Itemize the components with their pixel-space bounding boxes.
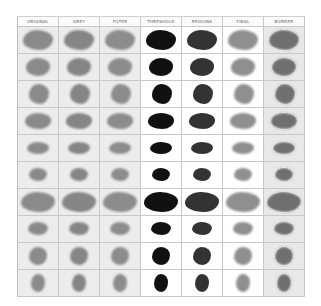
stage-image-grey-row-8	[59, 216, 100, 243]
column-header-filter: FILTER	[100, 17, 141, 27]
stage-image-filter-row-10	[100, 270, 141, 297]
stage-image-border-row-7	[264, 189, 305, 216]
stage-image-grey-row-2	[59, 54, 100, 81]
processing-stages-grid: ORIGINALGREYFILTERTHRESHOLDREGIONSFINALB…	[17, 16, 305, 297]
lesion-shape	[234, 247, 252, 265]
stage-image-final-row-5	[223, 135, 264, 162]
border-outline	[266, 191, 302, 213]
lesion-shape	[193, 84, 213, 104]
stage-image-final-row-3	[223, 81, 264, 108]
stage-image-final-row-10	[223, 270, 264, 297]
lesion-shape	[21, 192, 55, 212]
stage-image-regions-row-5	[182, 135, 223, 162]
lesion-shape	[152, 247, 170, 265]
stage-image-grey-row-10	[59, 270, 100, 297]
stage-image-grey-row-3	[59, 81, 100, 108]
stage-image-border-row-1	[264, 27, 305, 54]
stage-image-filter-row-6	[100, 162, 141, 189]
stage-image-grey-row-7	[59, 189, 100, 216]
lesion-shape	[150, 142, 172, 154]
stage-image-threshold-row-3	[141, 81, 182, 108]
stage-image-regions-row-6	[182, 162, 223, 189]
stage-image-threshold-row-10	[141, 270, 182, 297]
lesion-shape	[228, 30, 258, 50]
stage-image-final-row-4	[223, 108, 264, 135]
stage-image-border-row-5	[264, 135, 305, 162]
stage-image-final-row-2	[223, 54, 264, 81]
stage-image-original-row-1	[18, 27, 59, 54]
stage-image-original-row-7	[18, 189, 59, 216]
stage-image-border-row-10	[264, 270, 305, 297]
lesion-shape	[31, 274, 45, 292]
column-header-regions: REGIONS	[182, 17, 223, 27]
stage-image-grey-row-4	[59, 108, 100, 135]
lesion-shape	[193, 168, 211, 181]
stage-image-threshold-row-6	[141, 162, 182, 189]
stage-image-threshold-row-5	[141, 135, 182, 162]
lesion-shape	[111, 84, 131, 104]
stage-image-threshold-row-8	[141, 216, 182, 243]
lesion-shape	[234, 168, 252, 181]
lesion-shape	[67, 58, 91, 76]
stage-image-filter-row-8	[100, 216, 141, 243]
lesion-shape	[25, 113, 51, 129]
lesion-shape	[66, 113, 92, 129]
border-outline	[268, 29, 300, 51]
stage-image-filter-row-5	[100, 135, 141, 162]
stage-image-regions-row-2	[182, 54, 223, 81]
column-header-original: ORIGINAL	[18, 17, 59, 27]
lesion-shape	[191, 142, 213, 154]
stage-image-threshold-row-7	[141, 189, 182, 216]
stage-image-border-row-4	[264, 108, 305, 135]
lesion-shape	[26, 58, 50, 76]
stage-image-filter-row-7	[100, 189, 141, 216]
stage-image-filter-row-2	[100, 54, 141, 81]
stage-image-final-row-7	[223, 189, 264, 216]
lesion-shape	[151, 222, 171, 235]
stage-image-threshold-row-4	[141, 108, 182, 135]
stage-image-final-row-8	[223, 216, 264, 243]
lesion-shape	[105, 30, 135, 50]
lesion-shape	[113, 274, 127, 292]
stage-image-regions-row-7	[182, 189, 223, 216]
lesion-shape	[72, 274, 86, 292]
lesion-shape	[192, 222, 212, 235]
lesion-shape	[149, 58, 173, 76]
stage-image-regions-row-9	[182, 243, 223, 270]
stage-image-border-row-3	[264, 81, 305, 108]
lesion-shape	[232, 142, 254, 154]
stage-image-grey-row-6	[59, 162, 100, 189]
border-outline	[276, 273, 292, 293]
border-outline	[274, 83, 296, 105]
lesion-shape	[109, 142, 131, 154]
border-outline	[270, 112, 298, 130]
border-outline	[274, 246, 294, 266]
lesion-shape	[154, 274, 168, 292]
border-outline	[274, 167, 294, 182]
lesion-shape	[107, 113, 133, 129]
lesion-shape	[152, 168, 170, 181]
column-header-final: FINAL	[223, 17, 264, 27]
lesion-shape	[29, 247, 47, 265]
stage-image-original-row-8	[18, 216, 59, 243]
lesion-shape	[23, 30, 53, 50]
lesion-shape	[110, 222, 130, 235]
border-outline	[271, 57, 297, 77]
lesion-shape	[111, 247, 129, 265]
lesion-shape	[68, 142, 90, 154]
stage-image-final-row-9	[223, 243, 264, 270]
stage-image-filter-row-4	[100, 108, 141, 135]
lesion-shape	[185, 192, 219, 212]
stage-image-border-row-8	[264, 216, 305, 243]
lesion-shape	[64, 30, 94, 50]
lesion-shape	[190, 58, 214, 76]
stage-image-original-row-9	[18, 243, 59, 270]
stage-image-original-row-4	[18, 108, 59, 135]
stage-image-threshold-row-2	[141, 54, 182, 81]
stage-image-regions-row-1	[182, 27, 223, 54]
border-outline	[272, 141, 296, 155]
lesion-shape	[189, 113, 215, 129]
lesion-shape	[70, 84, 90, 104]
lesion-shape	[195, 274, 209, 292]
stage-image-threshold-row-9	[141, 243, 182, 270]
